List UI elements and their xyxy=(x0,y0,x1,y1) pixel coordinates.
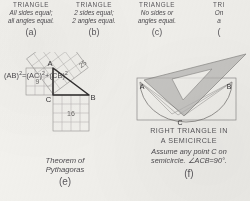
square-label-9: 9 xyxy=(36,78,40,85)
square-label-16: 16 xyxy=(67,110,75,117)
triangle-c-tag: (c) xyxy=(126,27,188,37)
semicircle-panel: A B C RIGHT TRIANGLE IN A SEMICIRCLE Ass… xyxy=(128,52,250,201)
triangle-b-line1: 2 sides equal; xyxy=(62,9,126,17)
triangle-c-line2: angles equal. xyxy=(126,17,188,25)
triangle-b-tag: (b) xyxy=(62,27,126,37)
pythagoras-tag: (e) xyxy=(0,176,130,187)
vertex-label-a: A xyxy=(47,59,53,68)
triangle-a-tag: (a) xyxy=(0,27,63,37)
pythagoras-diagram: 9 16 25 A C B xyxy=(0,52,130,157)
triangle-a-line1: All sides equal; xyxy=(0,9,63,17)
triangle-d-line1: On xyxy=(188,9,250,17)
triangle-c-line1: No sides or xyxy=(126,9,188,17)
semicircle-diagram: A B C xyxy=(128,52,250,130)
right-triangle-345 xyxy=(53,68,89,95)
document-page: TRIANGLE All sides equal; all angles equ… xyxy=(0,0,250,201)
triangle-type-d: TRI On a ( xyxy=(188,1,250,37)
pythagoras-panel: (AB)2=(AC)2+(CB)2 xyxy=(0,52,130,201)
vertex-label-c: C xyxy=(46,95,52,104)
semicircle-subcaption: Assume any point C on semicircle. ∠ACB=9… xyxy=(128,147,250,166)
triangle-a-line2: all angles equal. xyxy=(0,17,63,25)
triangle-c-heading: TRIANGLE xyxy=(126,1,188,9)
semicircle-sub-line1: Assume any point C on xyxy=(128,147,250,156)
semicircle-tag: (f) xyxy=(128,168,250,179)
pythagoras-caption: Theorem of Pythagoras xyxy=(0,156,130,175)
semicircle-vertex-b: B xyxy=(227,83,232,90)
pythagoras-caption-line2: Pythagoras xyxy=(0,165,130,174)
triangle-type-c: TRIANGLE No sides or angles equal. (c) xyxy=(126,1,188,37)
triangle-d-heading: TRI xyxy=(188,1,250,9)
pythagoras-caption-line1: Theorem of xyxy=(0,156,130,165)
leg-square-9 xyxy=(26,68,53,95)
triangle-type-b: TRIANGLE 2 sides equal; 2 angles equal. … xyxy=(62,1,126,37)
vertex-label-b: B xyxy=(90,93,95,102)
triangle-a-heading: TRIANGLE xyxy=(0,1,63,9)
semicircle-caption-line2: A SEMICIRCLE xyxy=(128,136,250,146)
triangle-b-line2: 2 angles equal. xyxy=(62,17,126,25)
triangle-types-row: TRIANGLE All sides equal; all angles equ… xyxy=(0,0,250,50)
semicircle-sub-line2: semicircle. ∠ACB=90°. xyxy=(128,156,250,165)
semicircle-vertex-c: C xyxy=(177,119,182,126)
semicircle-vertex-a: A xyxy=(140,83,145,90)
semicircle-caption: RIGHT TRIANGLE IN A SEMICIRCLE xyxy=(128,126,250,145)
triangle-d-line2: a xyxy=(188,17,250,25)
triangle-d-tag: ( xyxy=(188,27,250,37)
semicircle-caption-line1: RIGHT TRIANGLE IN xyxy=(128,126,250,136)
square-label-25: 25 xyxy=(77,59,88,69)
triangle-b-heading: TRIANGLE xyxy=(62,1,126,9)
triangle-type-a: TRIANGLE All sides equal; all angles equ… xyxy=(0,1,63,37)
